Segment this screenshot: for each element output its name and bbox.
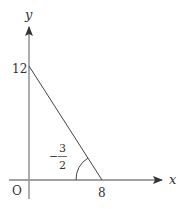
slope-fraction: − 3 2	[49, 142, 67, 172]
x-intercept-label: 8	[98, 186, 106, 200]
coordinate-diagram: y x O 12 8 − 3 2	[0, 0, 186, 209]
y-intercept-label: 12	[12, 62, 27, 76]
x-axis-label: x	[169, 172, 177, 187]
fraction-denominator: 2	[59, 159, 66, 172]
fraction-sign: −	[49, 150, 58, 163]
y-axis-label: y	[24, 7, 33, 22]
angle-arc	[76, 158, 88, 180]
fraction-numerator: 3	[59, 142, 66, 155]
origin-label: O	[12, 184, 22, 198]
